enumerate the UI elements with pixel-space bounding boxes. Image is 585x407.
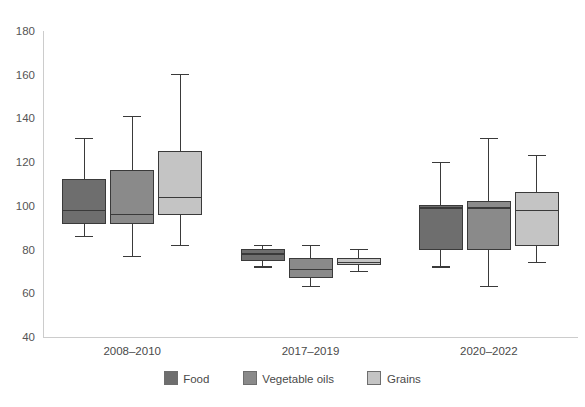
y-tick-label: 140 bbox=[16, 112, 35, 124]
legend-swatch-icon bbox=[368, 371, 381, 384]
box-body[interactable] bbox=[467, 201, 510, 249]
box-food-2008–2010[interactable] bbox=[63, 138, 106, 236]
box-body[interactable] bbox=[111, 171, 154, 223]
box-body[interactable] bbox=[419, 206, 462, 250]
box-vegetable-oils-2008–2010[interactable] bbox=[111, 116, 154, 256]
box-food-2017–2019[interactable] bbox=[241, 245, 284, 267]
legend-label: Grains bbox=[387, 373, 421, 385]
y-tick-label: 160 bbox=[16, 69, 35, 81]
legend-swatch-icon bbox=[243, 371, 256, 384]
y-tick-label: 60 bbox=[22, 287, 35, 299]
y-tick-label: 80 bbox=[22, 244, 35, 256]
legend-item-grains[interactable]: Grains bbox=[368, 371, 421, 385]
box-vegetable-oils-2017–2019[interactable] bbox=[289, 245, 332, 287]
y-tick-label: 120 bbox=[16, 156, 35, 168]
box-body[interactable] bbox=[289, 258, 332, 278]
x-tick-label: 2008–2010 bbox=[103, 345, 161, 357]
y-tick-label: 180 bbox=[16, 25, 35, 37]
box-plot-series bbox=[63, 75, 559, 287]
box-body[interactable] bbox=[63, 180, 106, 224]
legend-label: Food bbox=[183, 373, 209, 385]
box-food-2020–2022[interactable] bbox=[419, 162, 462, 267]
y-axis: 180160140120100806040 bbox=[16, 25, 43, 343]
legend-item-vegetable-oils[interactable]: Vegetable oils bbox=[243, 371, 334, 385]
boxplot-chart: 180160140120100806040 2008–20102017–2019… bbox=[0, 0, 585, 407]
y-tick-label: 100 bbox=[16, 200, 35, 212]
box-body[interactable] bbox=[241, 250, 284, 261]
box-grains-2017–2019[interactable] bbox=[337, 250, 380, 272]
legend-label: Vegetable oils bbox=[262, 373, 334, 385]
y-tick-label: 40 bbox=[22, 331, 35, 343]
box-body[interactable] bbox=[515, 193, 558, 245]
x-tick-label: 2017–2019 bbox=[282, 345, 340, 357]
chart-legend: FoodVegetable oilsGrains bbox=[164, 371, 421, 385]
box-vegetable-oils-2020–2022[interactable] bbox=[467, 138, 510, 287]
box-grains-2008–2010[interactable] bbox=[159, 75, 202, 245]
x-tick-label: 2020–2022 bbox=[460, 345, 518, 357]
box-body[interactable] bbox=[337, 258, 380, 265]
legend-item-food[interactable]: Food bbox=[164, 371, 209, 385]
chart-canvas: 180160140120100806040 2008–20102017–2019… bbox=[0, 0, 585, 407]
box-body[interactable] bbox=[159, 151, 202, 214]
legend-swatch-icon bbox=[164, 371, 177, 384]
x-tick-labels: 2008–20102017–20192020–2022 bbox=[103, 345, 517, 357]
box-grains-2020–2022[interactable] bbox=[515, 156, 558, 263]
